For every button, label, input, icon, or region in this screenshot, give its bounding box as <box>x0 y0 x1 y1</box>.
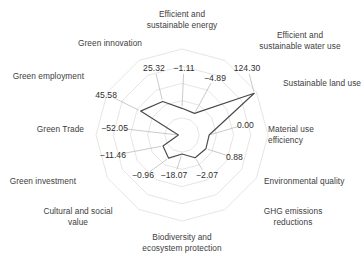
axis-label: Green innovation <box>64 38 156 49</box>
axis-label: Sustainable land use <box>283 78 363 89</box>
data-value-label: 124.30 <box>234 63 261 73</box>
leader-line <box>182 74 184 106</box>
grid-ring <box>148 101 217 170</box>
leader-line <box>121 146 161 154</box>
data-value-label: −18.07 <box>161 170 188 180</box>
data-value-label: −1.11 <box>173 63 194 73</box>
leader-line <box>156 74 162 100</box>
axis-label: Biodiversity and ecosystem protection <box>121 232 243 253</box>
leader-line <box>177 156 181 170</box>
data-value-label: −2.07 <box>196 170 218 180</box>
axis-label: Green Trade <box>4 124 84 135</box>
grid-ring <box>165 118 199 152</box>
radar-chart: Efficient and sustainable energyEfficien… <box>0 0 364 269</box>
axis-label: Efficient and sustainable water use <box>238 30 362 51</box>
data-value-label: 0.00 <box>237 120 254 130</box>
axis-label: GHG emissions reductions <box>253 206 333 227</box>
data-value-label: 0.88 <box>226 152 243 162</box>
axis-label: Material use efficiency <box>268 124 348 145</box>
data-value-label: 45.58 <box>95 90 117 100</box>
data-value-label: −0.96 <box>132 170 154 180</box>
leader-line <box>249 74 253 92</box>
data-value-label: −4.89 <box>204 73 226 83</box>
data-value-label: 25.32 <box>143 63 165 73</box>
axis-label: Green investment <box>0 176 76 187</box>
leader-line <box>196 159 202 170</box>
axis-label: Cultural and social value <box>26 206 130 227</box>
radar-grid <box>96 49 268 221</box>
axis-label: Environmental quality <box>264 176 364 187</box>
axis-label: Green employment <box>0 71 84 82</box>
grid-ring <box>113 66 251 204</box>
data-value-label: −11.46 <box>100 150 126 160</box>
leader-line <box>113 98 138 111</box>
leader-line <box>208 149 227 155</box>
data-value-label: −52.05 <box>101 123 128 133</box>
axis-label: Efficient and sustainable energy <box>127 9 237 30</box>
grid-ring <box>96 49 268 221</box>
